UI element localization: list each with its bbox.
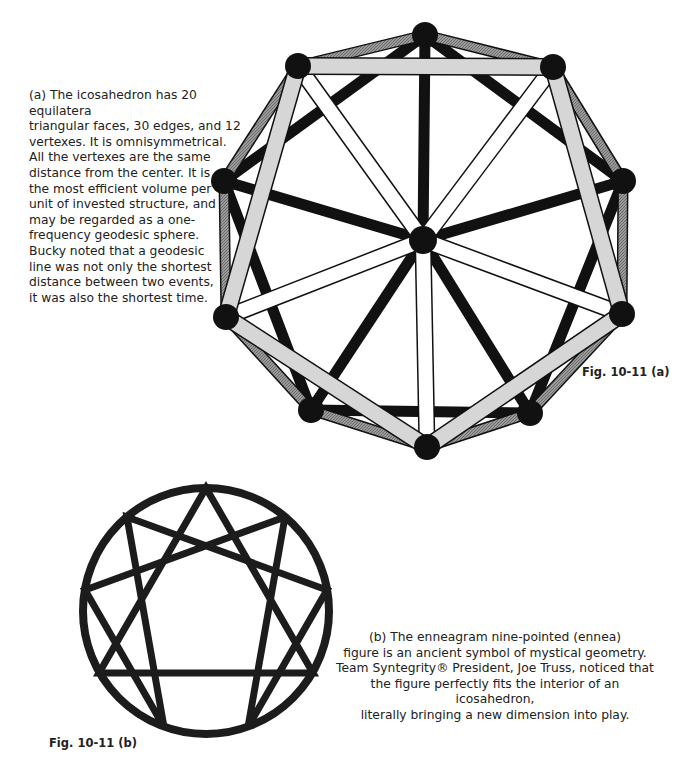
caption-figure-b: (b) The enneagram nine-pointed (ennea) f…	[330, 630, 660, 724]
enneagram-diagram	[83, 488, 329, 734]
figure-b-label: Fig. 10-11 (b)	[49, 736, 137, 750]
figure-a-label: Fig. 10-11 (a)	[582, 365, 669, 379]
